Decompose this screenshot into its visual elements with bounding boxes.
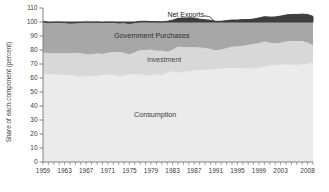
y-tick-label: 80 [30,46,38,53]
x-tick-label: 1991 [209,167,224,174]
y-tick-label: 30 [30,116,38,123]
y-tick-label: 100 [27,18,38,25]
y-tick-label: 90 [30,32,38,39]
x-tick-label: 1995 [230,167,245,174]
x-tick-label: 2003 [273,167,288,174]
x-tick-label: 1959 [36,167,51,174]
y-tick-label: 60 [30,74,38,81]
x-tick-label: 1975 [122,167,137,174]
x-tick-label: 1983 [165,167,180,174]
x-tick-label: 1963 [57,167,72,174]
y-tick-label: 10 [30,144,38,151]
x-tick-label: 1999 [252,167,267,174]
area-net-exports [43,14,313,23]
x-tick-label: 1967 [79,167,94,174]
y-tick-label: 110 [27,4,38,11]
stacked-area-chart: 0102030405060708090100110195919631967197… [0,0,329,192]
gdp-components-stacked-area-figure: 0102030405060708090100110195919631967197… [0,0,329,192]
x-tick-label: 1971 [101,167,116,174]
y-tick-label: 40 [30,102,38,109]
y-tick-label: 20 [30,130,38,137]
y-tick-label: 0 [34,158,38,165]
x-tick-label: 1979 [144,167,159,174]
y-tick-label: 70 [30,60,38,67]
area-consumption [43,63,313,162]
x-tick-label: 1987 [187,167,202,174]
y-tick-label: 50 [30,88,38,95]
x-tick-label: 2008 [300,167,315,174]
